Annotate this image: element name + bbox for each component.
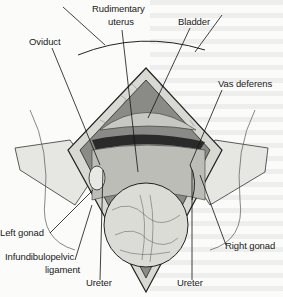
label-ureter-left: Ureter xyxy=(86,277,112,288)
label-oviduct: Oviduct xyxy=(29,36,61,47)
label-bladder: Bladder xyxy=(178,16,210,27)
label-rudimentary-uterus-1: Rudimentary xyxy=(92,3,145,14)
label-vas-deferens: Vas deferens xyxy=(218,78,272,89)
label-rudimentary-uterus-2: uterus xyxy=(108,16,134,27)
label-infundibulopelvic-2: ligament xyxy=(45,264,80,275)
incision-arc xyxy=(78,41,205,55)
label-right-gonad: Right gonad xyxy=(225,240,275,251)
label-left-gonad: Left gonad xyxy=(0,227,44,238)
label-ureter-right: Ureter xyxy=(177,277,203,288)
label-infundibulopelvic-1: Infundibulopelvic xyxy=(5,251,74,262)
